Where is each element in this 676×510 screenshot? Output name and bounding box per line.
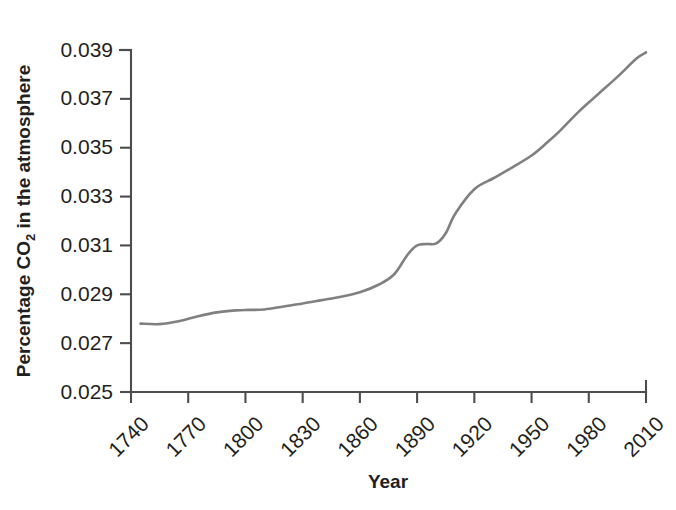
x-tick-label: 1830 [276,412,325,461]
y-tick-label: 0.035 [60,135,113,158]
x-tick-label: 1980 [562,412,611,461]
x-tick-label: 2010 [619,412,668,461]
x-tick-label-group: 1830 [276,412,325,461]
y-axis-title-subscript: 2 [23,234,38,241]
x-axis-title: Year [368,471,409,492]
x-tick-label: 1740 [104,412,153,461]
axis-frame [120,50,646,392]
y-axis-title-prefix: Percentage CO [13,241,34,377]
x-tick-label: 1890 [390,412,439,461]
x-tick-label-group: 2010 [619,412,668,461]
x-tick-label: 1950 [504,412,553,461]
y-axis-title-suffix: in the atmosphere [13,65,34,234]
y-tick-label: 0.033 [60,184,113,207]
y-tick-group: 0.0250.0270.0290.0310.0330.0350.0370.039 [60,38,131,403]
y-tick-label: 0.027 [60,331,113,354]
y-tick-label: 0.039 [60,38,113,61]
y-axis-title: Percentage CO2 in the atmosphere [13,65,38,377]
y-tick-label: 0.025 [60,380,113,403]
co2-line-chart: 0.0250.0270.0290.0310.0330.0350.0370.039… [0,0,676,510]
y-tick-label: 0.037 [60,86,113,109]
x-tick-label-group: 1890 [390,412,439,461]
co2-series-line [141,52,646,324]
x-tick-label-group: 1770 [161,412,210,461]
y-tick-label: 0.031 [60,233,113,256]
x-tick-label-group: 1980 [562,412,611,461]
chart-figure: 0.0250.0270.0290.0310.0330.0350.0370.039… [0,0,676,510]
x-tick-group: 1740177018001830186018901920195019802010 [104,392,668,461]
y-tick-label: 0.029 [60,282,113,305]
y-axis-title-text: Percentage CO2 in the atmosphere [13,65,38,377]
x-tick-label-group: 1860 [333,412,382,461]
x-tick-label: 1770 [161,412,210,461]
x-tick-label: 1800 [218,412,267,461]
x-tick-label-group: 1800 [218,412,267,461]
x-tick-label-group: 1920 [447,412,496,461]
x-tick-label-group: 1950 [504,412,553,461]
x-tick-label: 1860 [333,412,382,461]
x-tick-label: 1920 [447,412,496,461]
x-tick-label-group: 1740 [104,412,153,461]
